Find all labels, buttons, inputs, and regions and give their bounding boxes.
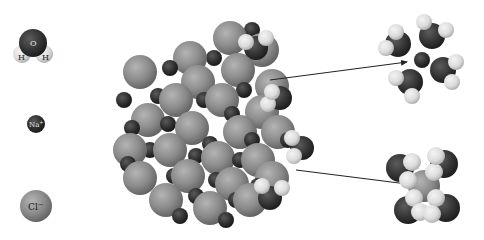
hydrogen-atom [444, 74, 460, 90]
nacl-dissolution-diagram: O H H Na+ Cl− [0, 0, 484, 240]
legend-chloride-ion: Cl− [20, 190, 52, 222]
sodium-ion [160, 116, 176, 132]
nacl-crystal-lattice [113, 21, 314, 228]
oxygen-label: O [30, 39, 37, 48]
hydrogen-atom [404, 88, 420, 104]
hydrogen-atom [448, 54, 464, 70]
hydrogen-atom [438, 22, 454, 38]
hydrogen-atom [403, 153, 421, 171]
sodium-ion [172, 208, 188, 224]
chloride-ion [123, 55, 157, 89]
sodium-ion [162, 60, 178, 76]
hydrogen-atom [238, 34, 254, 50]
hydrated-chloride-ion [386, 147, 460, 224]
hydrogen-label-left: H [18, 53, 25, 62]
hydrogen-atom [399, 171, 417, 189]
hydrogen-label-right: H [42, 53, 49, 62]
hydrogen-atom [388, 70, 404, 86]
hydrogen-atom [388, 24, 404, 40]
arrow-to-hydrated-sodium [270, 62, 407, 80]
hydrogen-atom [427, 189, 445, 207]
hydrated-sodium-ion [378, 14, 464, 104]
water-molecule [423, 189, 460, 223]
hydrogen-atom [284, 130, 300, 146]
legend-sodium-ion: Na+ [27, 115, 45, 133]
hydrogen-atom [425, 163, 443, 181]
water-molecule [430, 54, 464, 90]
sodium-ion [116, 92, 132, 108]
hydrogen-atom [258, 30, 274, 46]
chloride-ion [123, 161, 157, 195]
water-molecule [386, 153, 421, 189]
hydrogen-atom [423, 205, 441, 223]
hydrogen-atom [286, 148, 302, 164]
water-molecule [378, 24, 411, 57]
hydrogen-atom [427, 147, 445, 165]
water-molecule [416, 14, 454, 49]
sodium-ion [414, 52, 430, 68]
legend-water-molecule: O H H [13, 29, 53, 63]
hydrogen-atom [274, 180, 290, 196]
water-molecule [425, 147, 458, 181]
sodium-ion [206, 50, 222, 66]
hydrogen-atom [264, 84, 280, 100]
hydrogen-atom [254, 178, 270, 194]
hydrogen-atom [378, 40, 394, 56]
sodium-ion [218, 212, 234, 228]
hydrogen-atom [416, 14, 432, 30]
water-molecule [388, 69, 423, 104]
